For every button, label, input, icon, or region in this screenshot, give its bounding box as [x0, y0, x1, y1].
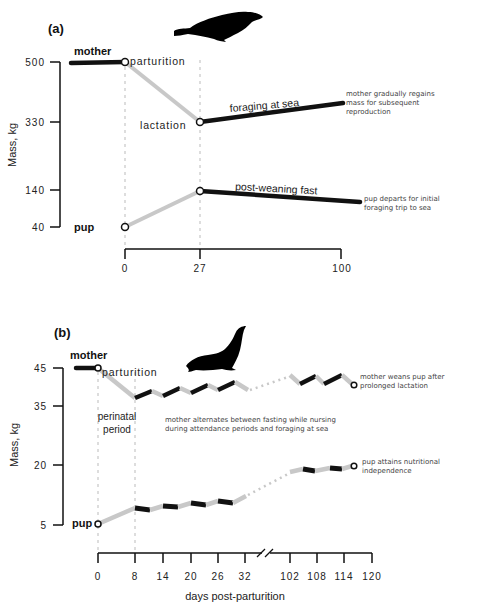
weaning-marker-mother — [197, 119, 204, 126]
x-tick-0: 0 — [122, 263, 129, 274]
alternates-note-line2: during attendance periods and foraging a… — [165, 425, 328, 433]
x-tick-8: 8 — [132, 571, 139, 582]
y-tick-40: 40 — [32, 222, 45, 233]
x-tick-108: 108 — [307, 571, 327, 582]
y-tick-35: 35 — [34, 401, 47, 412]
weans-note-line1: mother weans pup after — [360, 373, 445, 381]
independence-marker — [351, 463, 357, 469]
figure-canvas: (a) 500 330 140 40 Mass, kg 0 27 100 — [0, 0, 485, 610]
y-tick-500: 500 — [25, 57, 45, 68]
pup-independence-note-line1: pup attains nutritional — [362, 458, 440, 466]
mother-note-line3: reproduction — [346, 108, 391, 116]
sea-lion-silhouette-icon — [186, 326, 246, 372]
mother-line-lactation — [125, 62, 200, 122]
y-axis-title-b: Mass, kg — [8, 423, 20, 467]
panel-a-label: (a) — [48, 21, 64, 36]
x-tick-26: 26 — [211, 571, 224, 582]
y-tick-140: 140 — [25, 185, 45, 196]
parturition-marker-b — [95, 365, 101, 371]
y-tick-20: 20 — [34, 460, 47, 471]
parturition-label-a: parturition — [130, 55, 186, 67]
pup-note-line2: foraging trip to sea — [364, 204, 431, 212]
pup-line-nursing — [125, 191, 200, 227]
panel-a: (a) 500 330 140 40 Mass, kg 0 27 100 — [6, 12, 440, 274]
x-tick-14: 14 — [156, 571, 169, 582]
panel-b: (b) 45 35 20 5 Mass, kg — [8, 325, 445, 602]
mother-label-b: mother — [70, 349, 108, 361]
parturition-label-b: parturition — [102, 366, 158, 378]
perinatal-label-line2: period — [103, 424, 131, 435]
y-tick-5: 5 — [40, 520, 47, 531]
mother-note-line1: mother gradually regains — [346, 90, 435, 98]
pup-independence-note-line2: independence — [362, 467, 412, 475]
x-tick-100: 100 — [332, 263, 352, 274]
seal-silhouette-icon — [174, 12, 263, 42]
mother-note-line2: mass for subsequent — [346, 99, 420, 107]
mother-line-pre — [71, 62, 125, 63]
mother-label-a: mother — [74, 45, 112, 57]
pup-label-a: pup — [74, 221, 94, 233]
y-axis-title-a: Mass, kg — [6, 123, 18, 167]
weaning-marker-pup — [197, 188, 204, 195]
lactation-label: lactation — [140, 119, 186, 131]
weans-note-line2: prolonged lactation — [360, 382, 428, 390]
x-tick-20: 20 — [184, 571, 197, 582]
x-tick-120: 120 — [362, 571, 382, 582]
pup-birth-marker — [122, 224, 129, 231]
panel-b-label: (b) — [54, 325, 71, 340]
weaning-marker-b — [351, 382, 357, 388]
pup-label-b: pup — [72, 517, 92, 529]
pup-note-line1: pup departs for initial — [364, 195, 440, 203]
y-tick-45: 45 — [34, 363, 47, 374]
perinatal-label-line1: perinatal — [98, 411, 136, 422]
pup-line-b — [98, 466, 352, 524]
y-tick-330: 330 — [25, 117, 45, 128]
x-tick-0-b: 0 — [95, 571, 102, 582]
pup-birth-marker-b — [95, 521, 101, 527]
parturition-marker — [122, 59, 129, 66]
x-tick-102: 102 — [280, 571, 300, 582]
x-tick-32: 32 — [238, 571, 251, 582]
x-axis-title-b: days post-parturition — [185, 590, 285, 602]
x-tick-114: 114 — [335, 571, 354, 582]
x-tick-27: 27 — [193, 263, 206, 274]
alternates-note-line1: mother alternates between fasting while … — [165, 416, 336, 424]
